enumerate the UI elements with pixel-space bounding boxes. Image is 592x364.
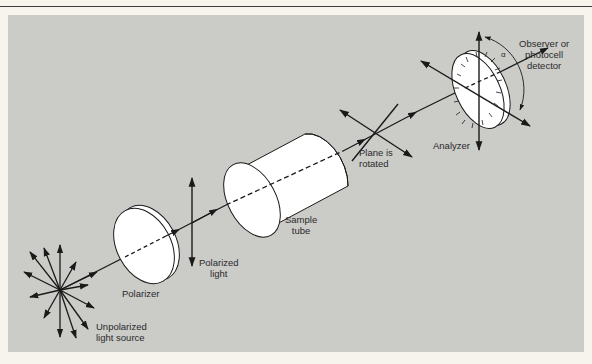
sample-tube-cylinder bbox=[212, 134, 348, 247]
light-source-starburst bbox=[24, 245, 97, 338]
label-sample-tube: Sample tube bbox=[285, 214, 317, 236]
label-angle-alpha: α bbox=[501, 49, 506, 60]
label-analyzer: Analyzer bbox=[433, 140, 470, 151]
label-unpolarized-light-source: Unpolarized light source bbox=[96, 321, 147, 343]
polarizer-disc bbox=[101, 195, 191, 294]
analyzer-disc bbox=[441, 42, 521, 136]
label-polarizer: Polarizer bbox=[122, 288, 160, 299]
label-polarized-light: Polarized light bbox=[199, 257, 239, 279]
label-plane-rotated: Plane is rotated bbox=[359, 147, 393, 169]
label-detector: Observer or photocell detector bbox=[519, 38, 569, 71]
